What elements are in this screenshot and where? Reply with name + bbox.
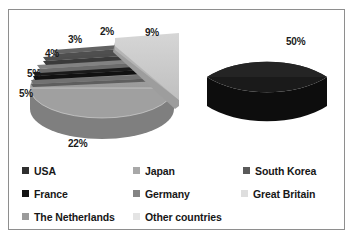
slice-usa[interactable] [207,39,327,121]
pie-label-other-countries: 22% [68,138,87,149]
legend-swatch-icon [241,190,248,197]
legend-item-france[interactable]: France [22,183,68,204]
pie-label-france: 3% [68,34,82,45]
legend-item-usa[interactable]: USA [22,160,56,181]
legend-swatch-icon [22,213,29,220]
legend-row: France Germany Great Britain [9,183,344,204]
chart-frame: 5% 5% 4% 3% 2% 9% 22% 50% USA Japan Sout… [8,9,345,230]
legend-swatch-icon [22,167,29,174]
legend-item-germany[interactable]: Germany [133,183,190,204]
pie-label-south-korea: 2% [100,26,114,37]
pie-label-germany: 4% [45,48,59,59]
chart-legend: USA Japan South Korea France Germany [9,160,344,229]
legend-swatch-icon [133,167,140,174]
legend-swatch-icon [243,167,250,174]
pie-label-usa: 50% [286,36,305,47]
pie-label-the-netherlands: 5% [19,88,33,99]
legend-label: South Korea [255,165,316,177]
legend-label: France [34,188,68,200]
legend-row: USA Japan South Korea [9,160,344,181]
legend-label: Other countries [145,211,222,223]
legend-item-south-korea[interactable]: South Korea [243,160,316,181]
legend-item-great-britain[interactable]: Great Britain [241,183,315,204]
legend-item-other-countries[interactable]: Other countries [133,206,222,227]
pie-label-great-britain: 5% [27,68,41,79]
legend-swatch-icon [22,190,29,197]
legend-item-the-netherlands[interactable]: The Netherlands [22,206,115,227]
legend-row: The Netherlands Other countries [9,206,344,227]
legend-item-japan[interactable]: Japan [133,160,175,181]
legend-swatch-icon [133,213,140,220]
pie-chart-graphic [9,10,344,158]
legend-label: The Netherlands [34,211,115,223]
legend-swatch-icon [133,190,140,197]
legend-label: Great Britain [253,188,315,200]
pie-label-japan: 9% [145,27,159,38]
legend-label: USA [34,165,56,177]
legend-label: Germany [145,188,190,200]
pie-chart-plot-area: 5% 5% 4% 3% 2% 9% 22% 50% [9,10,344,158]
legend-label: Japan [145,165,175,177]
